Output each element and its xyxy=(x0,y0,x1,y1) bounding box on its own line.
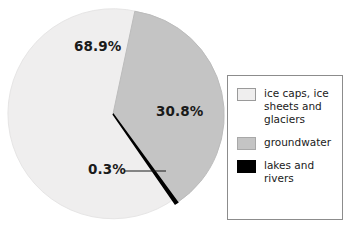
legend-item-groundwater[interactable]: groundwater xyxy=(237,136,337,150)
legend-item-ice-caps-ice-sheets-and-glaciers[interactable]: ice caps, ice sheets and glaciers xyxy=(237,87,337,127)
pie-label-ice-caps-ice-sheets-and-glaciers: 68.9% xyxy=(74,40,121,54)
legend-label-lakes-and-rivers: lakes and rivers xyxy=(264,159,314,185)
pie-chart-plot-area: 68.9% 30.8% 0.3% xyxy=(0,0,230,228)
pie-label-lakes-and-rivers: 0.3% xyxy=(88,163,126,177)
legend-item-lakes-and-rivers[interactable]: lakes and rivers xyxy=(237,159,337,185)
legend-label-ice-caps-ice-sheets-and-glaciers: ice caps, ice sheets and glaciers xyxy=(264,87,329,127)
legend-swatch-lakes-and-rivers xyxy=(237,160,256,173)
legend-label-groundwater: groundwater xyxy=(264,136,331,149)
legend-swatch-groundwater xyxy=(237,137,256,150)
legend-swatch-ice-caps-ice-sheets-and-glaciers xyxy=(237,88,256,101)
legend-items-container: ice caps, ice sheets and glaciers ground… xyxy=(237,87,337,194)
pie-label-groundwater: 30.8% xyxy=(156,105,203,119)
pie-chart-figure: 68.9% 30.8% 0.3% ice caps, ice sheets an… xyxy=(0,0,353,228)
chart-legend: ice caps, ice sheets and glaciers ground… xyxy=(227,75,343,220)
